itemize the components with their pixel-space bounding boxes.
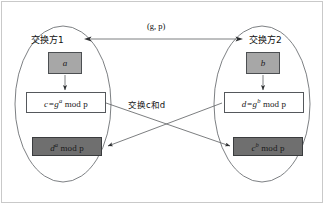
right-shared-key-box: cb mod p bbox=[233, 137, 303, 156]
left-shared-key-text: da mod p bbox=[50, 141, 84, 153]
left-public-formula-box: c=ga mod p bbox=[26, 92, 106, 113]
left-public-formula-text: c=ga mod p bbox=[44, 97, 88, 109]
party-label-left: 交换方1 bbox=[31, 33, 64, 46]
left-shared-key-box: da mod p bbox=[32, 137, 102, 156]
right-public-base: d=g bbox=[242, 99, 257, 109]
left-public-suffix: mod p bbox=[62, 99, 88, 109]
right-secret-value: b bbox=[261, 58, 266, 68]
edge-label-public-params: (g, p) bbox=[147, 21, 165, 31]
left-secret-box: a bbox=[48, 52, 82, 74]
right-shared-suffix: mod p bbox=[259, 143, 285, 153]
right-public-formula-box: d=gb mod p bbox=[224, 92, 304, 113]
left-shared-suffix: mod p bbox=[58, 143, 84, 153]
right-secret-box: b bbox=[246, 52, 280, 74]
right-shared-key-text: cb mod p bbox=[251, 141, 284, 153]
left-secret-value: a bbox=[63, 58, 68, 68]
party-label-right: 交换方2 bbox=[249, 33, 282, 46]
arrowhead-top-right bbox=[236, 37, 244, 42]
right-public-formula-text: d=gb mod p bbox=[242, 97, 286, 109]
left-public-base: c=g bbox=[44, 99, 59, 109]
right-public-suffix: mod p bbox=[261, 99, 287, 109]
edge-label-exchange-cd: 交换c和d bbox=[128, 98, 165, 110]
diffie-hellman-diagram: (g, p) 交换c和d 交换方1 a c=ga mod p da mod p … bbox=[0, 0, 326, 208]
